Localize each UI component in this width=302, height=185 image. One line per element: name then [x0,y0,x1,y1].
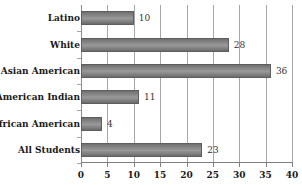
x-tick-15 [160,163,161,167]
x-tick-label-35: 35 [254,169,278,181]
bar[interactable] [81,90,139,104]
x-tick-label-0: 0 [69,169,93,181]
bar-value-label: 23 [202,143,218,157]
gridline-5 [107,5,108,163]
bar-row[interactable]: 11 [81,90,292,104]
category-tick [77,31,81,32]
category-tick [77,137,81,138]
x-tick-label-10: 10 [122,169,146,181]
x-tick-10 [134,163,135,167]
gridline-20 [187,5,188,163]
bar[interactable] [81,143,202,157]
x-tick-label-20: 20 [175,169,199,181]
bar[interactable] [81,38,229,52]
category-label: Asian American [1,64,80,78]
bar-row[interactable]: 36 [81,64,292,78]
bar-value-label: 36 [271,64,287,78]
x-tick-label-30: 30 [227,169,251,181]
bar[interactable] [81,11,134,25]
bar-row[interactable]: 4 [81,117,292,131]
bar-value-label: 11 [139,90,155,104]
gridline-0 [81,5,82,163]
x-tick-40 [292,163,293,167]
x-tick-20 [187,163,188,167]
bar-chart: 23411362810 0510152025303540All Students… [0,0,302,185]
x-tick-5 [107,163,108,167]
gridline-35 [266,5,267,163]
category-label: Latino [48,11,80,25]
x-tick-label-40: 40 [280,169,302,181]
gridline-40 [292,5,293,163]
category-tick [77,58,81,59]
x-tick-0 [81,163,82,167]
plot-area: 23411362810 [81,5,292,163]
bar-value-label: 10 [134,11,150,25]
x-tick-label-25: 25 [201,169,225,181]
bar[interactable] [81,117,102,131]
bar-row[interactable]: 23 [81,143,292,157]
category-label: American Indian [0,90,80,104]
category-label: All Students [18,143,80,157]
gridline-30 [239,5,240,163]
gridline-10 [134,5,135,163]
gridline-25 [213,5,214,163]
bar-value-label: 28 [229,38,245,52]
category-tick [77,110,81,111]
bar-row[interactable]: 28 [81,38,292,52]
x-tick-30 [239,163,240,167]
x-tick-label-15: 15 [148,169,172,181]
category-label: African American [0,117,80,131]
bar-value-label: 4 [102,117,113,131]
x-tick-35 [266,163,267,167]
x-tick-25 [213,163,214,167]
bar[interactable] [81,64,271,78]
bar-row[interactable]: 10 [81,11,292,25]
x-tick-label-5: 5 [95,169,119,181]
category-tick [77,84,81,85]
category-tick [77,163,81,164]
gridline-15 [160,5,161,163]
category-label: White [50,38,80,52]
